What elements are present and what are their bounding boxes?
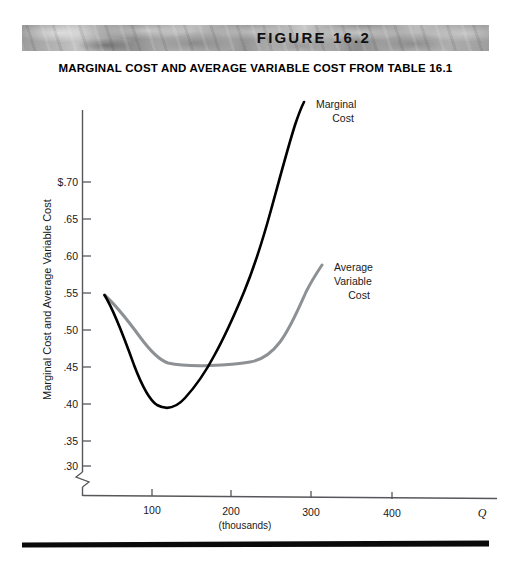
y-tick-label-055: .55 — [63, 287, 78, 299]
y-tick-label-060: .60 — [63, 250, 78, 262]
y-tick-label-045: .45 — [63, 361, 78, 373]
marginal-cost-label-line1: Marginal — [316, 98, 356, 110]
x-tick-label-200: 200 — [222, 505, 240, 517]
x-axis-variable-label: Q — [478, 506, 487, 520]
average-variable-cost-curve — [105, 265, 323, 366]
y-tick-label-065: .65 — [63, 213, 78, 225]
avc-label-line3: Cost — [348, 289, 370, 301]
x-tick-label-300: 300 — [302, 506, 320, 518]
x-axis-line — [83, 496, 498, 499]
x-tick-label-400: 400 — [383, 507, 401, 519]
y-axis-break-icon — [76, 472, 89, 487]
x-tick-label-100: 100 — [143, 504, 161, 516]
y-tick-label-040: .40 — [63, 398, 78, 410]
marginal-cost-annotation: Marginal Cost — [316, 98, 356, 124]
y-axis-ticks — [83, 182, 92, 466]
y-tick-label-035: .35 — [63, 435, 78, 447]
average-variable-cost-annotation: Average Variable Cost — [334, 261, 373, 301]
avc-label-line1: Average — [334, 261, 373, 273]
bottom-rule-bar — [22, 541, 489, 548]
bottom-rule — [22, 540, 489, 548]
y-axis-title: Marginal Cost and Average Variable Cost — [41, 199, 53, 400]
y-tick-label-030: .30 — [63, 460, 78, 472]
marginal-cost-label-line2: Cost — [332, 112, 354, 124]
chart-plot: $.70 .65 .60 .55 .50 .45 .40 .35 .30 Mar… — [0, 0, 511, 540]
x-axis-units-label: (thousands) — [219, 520, 272, 531]
y-tick-label-070: $.70 — [58, 176, 79, 188]
marginal-cost-curve — [105, 102, 305, 408]
y-tick-label-050: .50 — [63, 324, 78, 336]
y-axis-tick-labels: $.70 .65 .60 .55 .50 .45 .40 .35 .30 — [58, 176, 79, 472]
x-axis-tick-labels: 100 200 300 400 — [143, 504, 401, 519]
avc-label-line2: Variable — [334, 275, 372, 287]
